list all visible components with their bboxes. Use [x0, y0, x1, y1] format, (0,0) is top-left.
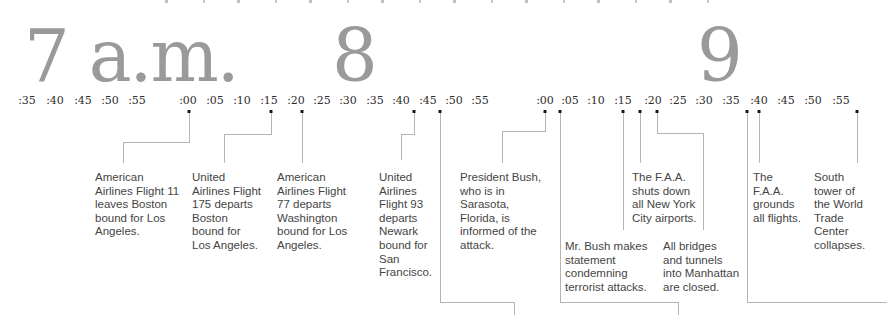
event-marker-dot-aa-flight-77-departs: [301, 110, 304, 113]
event-marker-dot-ua-flight-175-departs: [270, 110, 273, 113]
tick-label: :55: [832, 95, 850, 107]
hour-label: 9: [697, 20, 741, 92]
hour-label: 8: [332, 20, 376, 92]
event-text-aa-flight-77-departs: American Airlines Flight 77 departs Wash…: [277, 171, 347, 253]
event-marker-dot-offscreen-event-2: [559, 110, 562, 113]
event-marker-dot-faa-grounds-all-flights: [758, 110, 761, 113]
tick-label: :35: [366, 95, 384, 107]
event-marker-dot-bush-statement: [622, 110, 625, 113]
tick-label: :15: [614, 95, 632, 107]
cropped-caption-remnant: [165, 0, 725, 3]
tick-label: :20: [287, 95, 305, 107]
event-marker-dot-ua-flight-93-departs: [413, 110, 416, 113]
event-text-faa-grounds-all-flights: The F.A.A. grounds all flights.: [753, 171, 801, 225]
tick-label: :05: [206, 95, 224, 107]
event-marker-dot-offscreen-event-3: [746, 110, 749, 113]
event-marker-dot-south-tower-collapses: [856, 110, 859, 113]
tick-label: :15: [260, 95, 278, 107]
tick-label: :55: [471, 95, 489, 107]
tick-label: :30: [695, 95, 713, 107]
event-text-aa-flight-11-departs: American Airlines Flight 11 leaves Bosto…: [95, 171, 179, 239]
connector-line-ua-flight-175-departs: [224, 113, 271, 163]
tick-label: :55: [128, 95, 146, 107]
connector-line-aa-flight-11-departs: [123, 113, 189, 163]
tick-label: :50: [101, 95, 119, 107]
hour-label: 7 a.m.: [24, 20, 238, 92]
event-marker-dot-faa-shuts-nyc-airports: [639, 110, 642, 113]
event-text-south-tower-collapses: South tower of the World Trade Center co…: [814, 171, 865, 253]
tick-label: :35: [18, 95, 36, 107]
event-text-bridges-tunnels-closed: All bridges and tunnels into Manhattan a…: [663, 240, 739, 294]
connector-line-bush-informed-of-attack: [502, 113, 545, 163]
tick-label: :30: [339, 95, 357, 107]
tick-label: :40: [750, 95, 768, 107]
tick-label: :25: [669, 95, 687, 107]
tick-label: :50: [804, 95, 822, 107]
event-marker-dot-offscreen-event-1: [439, 110, 442, 113]
tick-label: :45: [419, 95, 437, 107]
tick-label: :50: [445, 95, 463, 107]
tick-label: :20: [644, 95, 662, 107]
tick-label: :00: [179, 95, 197, 107]
event-marker-dot-aa-flight-11-departs: [188, 110, 191, 113]
event-text-bush-informed-of-attack: President Bush, who is in Sarasota, Flor…: [460, 171, 541, 253]
tick-label: :10: [233, 95, 251, 107]
event-text-ua-flight-175-departs: United Airlines Flight 175 departs Bosto…: [192, 171, 261, 253]
tick-label: :05: [561, 95, 579, 107]
tick-label: :40: [392, 95, 410, 107]
timeline-graphic: 7 a.m.89:35:40:45:50:55:00:05:10:15:20:2…: [0, 0, 887, 318]
event-marker-dot-bridges-tunnels-closed: [656, 110, 659, 113]
tick-label: :25: [313, 95, 331, 107]
event-text-ua-flight-93-departs: United Airlines Flight 93 departs Newark…: [379, 171, 432, 280]
tick-label: :35: [722, 95, 740, 107]
tick-label: :00: [536, 95, 554, 107]
tick-label: :40: [46, 95, 64, 107]
event-marker-dot-bush-informed-of-attack: [544, 110, 547, 113]
tick-label: :45: [777, 95, 795, 107]
tick-label: :45: [74, 95, 92, 107]
connector-line-ua-flight-93-departs: [401, 113, 414, 160]
tick-label: :10: [587, 95, 605, 107]
event-text-faa-shuts-nyc-airports: The F.A.A. shuts down all New York City …: [632, 171, 697, 225]
event-text-bush-statement: Mr. Bush makes statement condemning terr…: [565, 240, 647, 294]
